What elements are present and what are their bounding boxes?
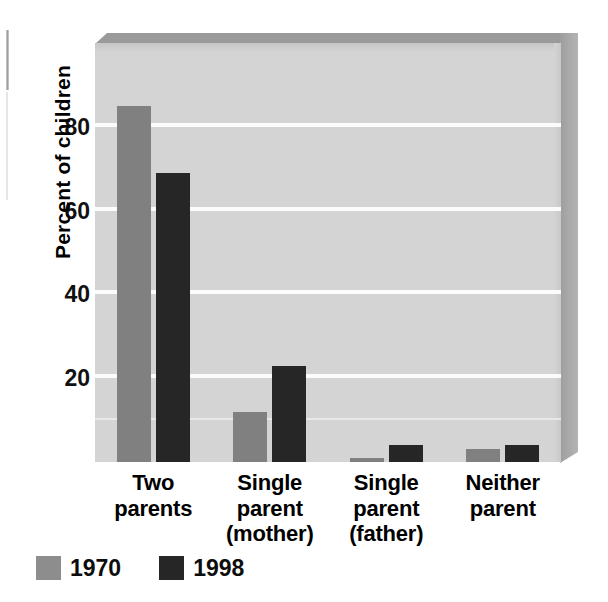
- bar-1998-cat1: [272, 366, 306, 462]
- legend-label-1998: 1998: [193, 557, 244, 580]
- bar-1970-cat1: [233, 412, 267, 462]
- x-label-line: Two: [95, 470, 212, 496]
- legend-item-1998: 1998: [159, 556, 244, 580]
- chart-legend: 19701998: [36, 556, 244, 580]
- plot-bevel-right: [560, 33, 578, 463]
- y-tick-label-20: 20: [44, 367, 90, 390]
- plot-bevel-top: [95, 33, 578, 43]
- gridline-80: [95, 123, 561, 127]
- x-label-line: (father): [328, 521, 445, 547]
- legend-label-1970: 1970: [70, 557, 121, 580]
- x-label-line: parent: [328, 496, 445, 522]
- legend-item-1970: 1970: [36, 556, 121, 580]
- bar-1970-cat0: [117, 106, 151, 462]
- bar-1970-cat3: [466, 449, 500, 462]
- plot-right-shading: [554, 43, 561, 462]
- plot-top-shading: [95, 43, 561, 52]
- x-label-line: parent: [212, 496, 329, 522]
- legend-swatch-icon-1998: [159, 556, 184, 580]
- x-label-line: Single: [328, 470, 445, 496]
- scan-artifact-faint: [6, 92, 8, 200]
- x-label-line: parent: [445, 496, 562, 522]
- legend-swatch-icon-1970: [36, 556, 61, 580]
- x-label-group-0: Twoparents: [95, 470, 212, 555]
- plot-bevel-corner-bottomright: [560, 452, 578, 463]
- x-label-group-2: Singleparent(father): [328, 470, 445, 555]
- x-label-group-1: Singleparent(mother): [212, 470, 329, 555]
- scan-artifact-line: [6, 30, 9, 90]
- x-label-line: (mother): [212, 521, 329, 547]
- x-label-group-3: Neitherparent: [445, 470, 562, 555]
- bar-1998-cat2: [389, 445, 423, 462]
- x-label-line: Neither: [445, 470, 562, 496]
- y-axis-title: Percent of children: [51, 57, 75, 267]
- x-label-line: parents: [95, 496, 212, 522]
- bar-chart-figure: 20406080 Percent of children TwoparentsS…: [0, 0, 608, 602]
- x-label-line: Single: [212, 470, 329, 496]
- y-tick-label-40: 40: [44, 283, 90, 306]
- plot-area: [95, 43, 561, 462]
- bar-1970-cat2: [350, 458, 384, 462]
- x-axis-category-labels: TwoparentsSingleparent(mother)Singlepare…: [95, 470, 561, 555]
- bar-1998-cat0: [156, 173, 190, 462]
- bar-1998-cat3: [505, 445, 539, 462]
